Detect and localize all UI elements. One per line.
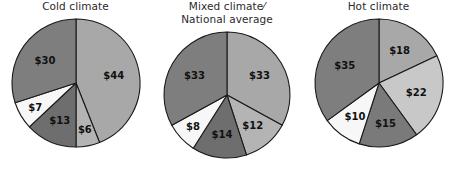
pie-slice-label: $33 [249, 70, 270, 81]
pie-slice-label: $13 [49, 114, 70, 125]
chart-title-cold-climate: Cold climate [42, 0, 109, 13]
chart-title-hot-climate: Hot climate [348, 0, 410, 13]
pie-mixed-climate: $33$12$14$8$33 [157, 25, 297, 165]
pie-slice-label: $44 [103, 70, 124, 81]
pie-svg-hot-climate: $18$22$15$10$35 [309, 13, 449, 153]
pie-slice-label: $14 [212, 129, 233, 140]
pie-slice-label: $30 [34, 54, 55, 65]
chart-panel-mixed-climate: Mixed climate⁄ National average $33$12$1… [152, 0, 303, 194]
pie-slice-label: $35 [334, 59, 355, 70]
pie-slice-label: $22 [405, 86, 426, 97]
pie-svg-cold-climate: $44$6$13$7$30 [6, 13, 146, 153]
pie-slice-label: $18 [389, 44, 410, 55]
pie-svg-mixed-climate: $33$12$14$8$33 [157, 25, 297, 165]
pie-cold-climate: $44$6$13$7$30 [6, 13, 146, 153]
chart-title-mixed-climate: Mixed climate⁄ National average [181, 0, 273, 25]
pie-slice-label: $6 [77, 123, 91, 134]
pie-hot-climate: $18$22$15$10$35 [309, 13, 449, 153]
pie-slice-label: $15 [374, 117, 395, 128]
pie-slice-label: $10 [344, 110, 365, 121]
pie-slice-label: $7 [28, 101, 42, 112]
chart-panel-hot-climate: Hot climate $18$22$15$10$35 [303, 0, 454, 194]
pie-chart-figure: Cold climate $44$6$13$7$30 Mixed climate… [0, 0, 454, 194]
chart-panel-cold-climate: Cold climate $44$6$13$7$30 [0, 0, 151, 194]
pie-slice-label: $8 [186, 121, 200, 132]
pie-slice-label: $12 [242, 120, 263, 131]
pie-slice-label: $33 [184, 70, 205, 81]
